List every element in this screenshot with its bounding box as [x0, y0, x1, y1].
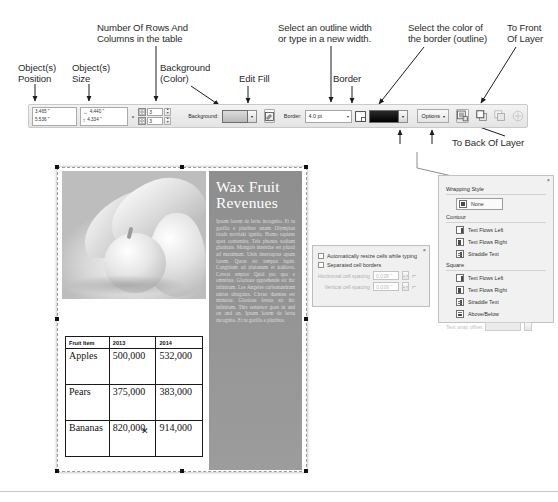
rows-step-down[interactable]: ▼: [166, 112, 169, 115]
wrap-option-contour-straddle-text[interactable]: Straddle Text: [456, 250, 546, 258]
border-style-button[interactable]: [355, 109, 366, 123]
close-icon[interactable]: ×: [547, 177, 550, 183]
columns-stepper[interactable]: ▲ ▼: [164, 117, 171, 125]
fruit-photograph[interactable]: [62, 171, 206, 299]
document-page[interactable]: Wax Fruit Revenues Ipsum lorem de lectu …: [57, 167, 307, 472]
mouse-cursor-icon: ✕: [141, 426, 149, 436]
contour-text-flows-left-label: Text Flows Left: [468, 227, 503, 233]
column-header-2014: 2014: [156, 337, 203, 349]
selection-handle[interactable]: [55, 469, 59, 473]
vertical-spacing-label: Vertical cell spacing: [318, 284, 370, 290]
cell-bananas-2014[interactable]: 914,000: [156, 421, 203, 457]
square-text-flows-left-icon: [456, 274, 464, 282]
to-back-of-layer-button[interactable]: [494, 109, 506, 123]
wrap-option-contour-text-flows-left[interactable]: Text Flows Left: [456, 226, 546, 234]
cell-spacing-dialog[interactable]: × Automatically resize cells while typin…: [312, 245, 430, 307]
cell-fruit-bananas[interactable]: Bananas: [66, 421, 110, 457]
auto-resize-label: Automatically resize cells while typing: [327, 253, 417, 259]
to-front-of-layer-button[interactable]: [476, 109, 488, 123]
table-row[interactable]: Bananas 820,000 914,000: [66, 421, 203, 457]
columns-value[interactable]: 3: [147, 117, 163, 125]
object-size-height: 4.334 ": [87, 116, 101, 124]
close-icon[interactable]: ×: [423, 247, 426, 253]
fruit-revenue-table[interactable]: Fruit Item 2013 2014 Apples 500,000 532,…: [65, 336, 203, 457]
selection-handle[interactable]: [55, 317, 59, 321]
wrap-option-square-text-flows-right[interactable]: Text Flows Right: [456, 286, 546, 294]
article-sidebar[interactable]: Wax Fruit Revenues Ipsum lorem de lectu …: [209, 171, 302, 470]
background-color-swatch[interactable]: [222, 110, 248, 123]
wrap-option-none[interactable]: None: [456, 198, 503, 210]
contour-straddle-text-icon: [456, 250, 464, 258]
table-row[interactable]: Pears 375,000 383,000: [66, 385, 203, 421]
border-width-value[interactable]: 4.0 pt: [309, 113, 323, 119]
selection-handle[interactable]: [180, 469, 184, 473]
divider: [446, 194, 546, 195]
selection-handle[interactable]: [180, 165, 184, 169]
border-width-combo[interactable]: 4.0 pt ▾: [305, 110, 353, 123]
horizontal-spacing-diagram-icon: ⌐: [412, 272, 416, 279]
square-straddle-text-label: Straddle Text: [468, 299, 499, 305]
square-text-flows-right-icon: [456, 286, 464, 294]
rows-icon: [138, 108, 146, 116]
group-objects-button[interactable]: [512, 109, 524, 123]
border-color-picker[interactable]: ▾: [369, 110, 408, 123]
options-button[interactable]: Options ▾: [417, 109, 449, 123]
wrap-option-square-straddle-text[interactable]: Straddle Text: [456, 298, 546, 306]
background-dropdown-icon[interactable]: ▾: [248, 110, 257, 123]
text-wrap-button[interactable]: [456, 109, 469, 123]
text-wrap-offset-stepper: [524, 322, 532, 331]
separated-borders-checkbox[interactable]: [318, 262, 324, 268]
horizontal-cell-spacing-row: Horizontal cell spacing 0.038 " ▲▼ ⌐: [318, 271, 424, 280]
wrapping-style-panel[interactable]: × Wrapping Style None Contour Text Flows…: [438, 175, 554, 323]
contour-straddle-text-label: Straddle Text: [468, 251, 499, 257]
wrap-option-square-above-below[interactable]: Above/Below: [456, 310, 546, 318]
rows-value[interactable]: 3: [147, 108, 163, 116]
wrapping-style-title: Wrapping Style: [446, 186, 546, 192]
background-color-picker[interactable]: ▾: [222, 110, 257, 123]
square-above-below-label: Above/Below: [468, 311, 499, 317]
border-color-swatch[interactable]: [369, 110, 399, 123]
article-body-text: Ipsum lorem de lectu incognito. Et tu go…: [216, 218, 295, 324]
contour-text-flows-right-icon: [456, 238, 464, 246]
wrap-option-square-text-flows-left[interactable]: Text Flows Left: [456, 274, 546, 282]
selection-handle[interactable]: [55, 165, 59, 169]
toolbar-separator: •: [131, 113, 135, 120]
separated-borders-label: Separated cell borders: [327, 262, 381, 268]
separated-cell-borders-option[interactable]: Separated cell borders: [318, 262, 424, 268]
divider: [446, 270, 546, 271]
wrap-option-contour-text-flows-right[interactable]: Text Flows Right: [456, 238, 546, 246]
columns-step-down[interactable]: ▼: [166, 121, 169, 124]
object-position-x: 3.465 ": [35, 108, 49, 116]
cell-pears-2013[interactable]: 375,000: [109, 385, 156, 421]
auto-resize-checkbox[interactable]: [318, 253, 324, 259]
cell-apples-2013[interactable]: 500,000: [109, 349, 156, 385]
wrap-none-icon: [459, 200, 467, 208]
object-toolbar[interactable]: 3.465 " 5.536 " ↔ 4.440 " ↕ 4.334 " • 3 …: [28, 104, 528, 128]
height-arrow-icon: ↕: [83, 116, 86, 124]
selection-handle[interactable]: [304, 317, 308, 321]
selection-handle[interactable]: [304, 469, 308, 473]
group-icon: [512, 110, 524, 122]
border-color-dropdown-icon[interactable]: ▾: [399, 110, 408, 123]
rows-spinner[interactable]: 3 ▲ ▼: [138, 108, 171, 116]
auto-resize-cells-option[interactable]: Automatically resize cells while typing: [318, 253, 424, 259]
object-size-field[interactable]: ↔ 4.440 " ↕ 4.334 ": [80, 107, 128, 126]
cell-pears-2014[interactable]: 383,000: [156, 385, 203, 421]
table-row[interactable]: Apples 500,000 532,000: [66, 349, 203, 385]
contour-group-title: Contour: [446, 214, 546, 220]
cell-fruit-pears[interactable]: Pears: [66, 385, 110, 421]
horizontal-spacing-stepper: ▲▼: [402, 271, 409, 280]
edit-fill-icon: [265, 112, 274, 121]
cell-fruit-apples[interactable]: Apples: [66, 349, 110, 385]
rows-columns-group[interactable]: 3 ▲ ▼ 3 ▲ ▼: [138, 108, 171, 125]
horizontal-spacing-label: Horizontal cell spacing: [318, 273, 370, 279]
border-width-chevron-down-icon[interactable]: ▾: [347, 114, 351, 119]
cell-apples-2014[interactable]: 532,000: [156, 349, 203, 385]
columns-spinner[interactable]: 3 ▲ ▼: [138, 117, 171, 125]
rows-stepper[interactable]: ▲ ▼: [164, 108, 171, 116]
edit-fill-button[interactable]: [264, 109, 275, 123]
options-chevron-down-icon[interactable]: ▾: [443, 114, 445, 119]
wrap-none-label: None: [471, 201, 484, 207]
object-position-field[interactable]: 3.465 " 5.536 ": [32, 107, 77, 126]
selection-handle[interactable]: [304, 165, 308, 169]
